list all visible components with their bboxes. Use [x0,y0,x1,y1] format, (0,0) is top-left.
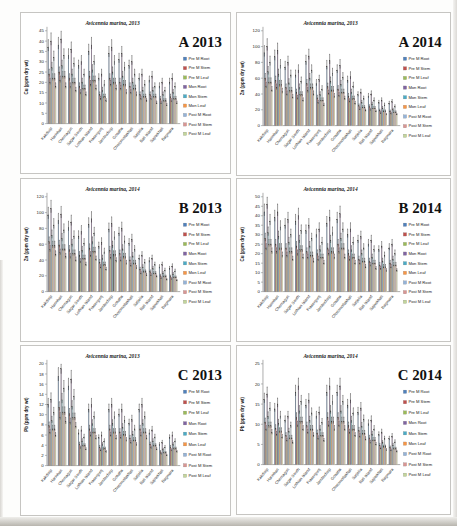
bar [166,280,167,292]
bar [65,257,66,292]
bar [352,99,353,126]
bar [164,101,165,124]
bar [295,392,296,464]
bar [288,220,289,292]
bar [48,215,49,292]
legend-swatch [403,300,406,303]
bar [129,243,130,291]
bar [372,257,373,291]
y-tick-label: 40 [39,258,44,263]
legend-label: Mon Root [408,420,427,425]
bar [282,437,283,464]
bar [309,78,310,125]
bar [177,103,178,124]
y-axis-label: Pb (ppm dry wt) [24,397,29,432]
bar [269,426,270,465]
bar [101,74,102,124]
bar [364,434,365,465]
bar [120,89,121,124]
bar [102,445,103,466]
bar [129,66,130,124]
y-tick-label: 20 [39,361,44,366]
legend-swatch [403,390,406,393]
bar [323,257,324,291]
bar [363,248,364,292]
bar [291,438,292,465]
bars [264,39,397,126]
y-tick-label: 10 [255,270,260,275]
bar [156,449,157,465]
bar [358,95,359,126]
y-tick-label: 35 [39,49,44,54]
bar [101,435,102,466]
bar [340,386,341,465]
bar [63,249,64,292]
y-tick-label: 8 [41,422,44,427]
bar [320,95,321,126]
bar [100,267,101,291]
bar [317,98,318,126]
bar [102,258,103,291]
bar [353,242,354,291]
bar [396,271,397,292]
bar [174,99,175,124]
bar [109,429,110,466]
bar [81,430,82,466]
bar [290,426,291,465]
bar [120,82,121,123]
bar [163,95,164,124]
legend-swatch [183,104,186,107]
legend-swatch [403,57,406,60]
bar [152,76,153,123]
bar [365,267,366,292]
y-tick-label: 40 [39,39,44,44]
y-tick-label: 60 [39,242,44,247]
bar [132,256,133,292]
bar [136,95,137,124]
bar [338,244,339,291]
y-tick-label: 30 [39,59,44,64]
legend-swatch [183,85,186,88]
bar [170,277,171,292]
legend-swatch [183,95,186,98]
bar [73,254,74,292]
legend-label: Mon Root [188,84,207,89]
bar [287,440,288,464]
bar [120,260,121,292]
bar [285,67,286,125]
y-axis-label: Cu (ppm dry wt) [24,59,29,94]
bar [160,452,161,466]
bar [385,447,386,465]
bar [92,70,93,124]
bar [270,221,271,291]
bar [143,432,144,466]
bar [362,434,363,465]
bar [74,396,75,465]
bar [303,257,304,291]
bar [48,405,49,466]
x-tick-labels: KakdwipHarinbariChemaguriSagar SouthLoth… [40,467,175,493]
legend-swatch [403,262,406,265]
bar [327,248,328,292]
y-tick-label: 120 [37,194,45,199]
bar [172,78,173,123]
chart-panel-c-2013: Avicennia marina, 2013C 2013Pb (ppm dry … [20,345,231,516]
bar [104,441,105,465]
bar [109,251,110,292]
bar [53,58,54,124]
bar [135,263,136,291]
bar [274,218,275,292]
bar [385,267,386,292]
bar [52,236,53,292]
legend-swatch [183,242,186,245]
bar [85,89,86,124]
legend-label: Pre M Root [188,222,210,227]
y-tick-label: 80 [255,60,260,65]
bar [376,269,377,292]
bar [271,244,272,291]
bar [85,446,86,466]
bar [131,239,132,291]
bar [163,450,164,466]
bar [270,62,271,125]
bar [326,392,327,464]
